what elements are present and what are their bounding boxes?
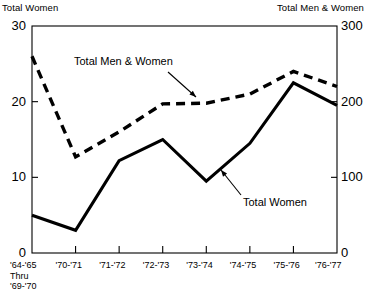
x-axis-tick-label-line: '69-'70 [10, 281, 36, 292]
x-axis-tick-label-line: '74-'75 [230, 260, 256, 271]
annotation-total-women: Total Women [243, 196, 307, 208]
x-axis-tick-label-line: '75-'76 [273, 260, 299, 271]
x-axis-tick-label: '71-'72 [99, 260, 125, 271]
x-axis-tick-label-line: '64-'65 [10, 260, 36, 271]
left-axis-tick-label: 0 [0, 245, 26, 260]
x-axis-tick-label-line: '72-'73 [143, 260, 169, 271]
x-axis-tick-label: '75-'76 [273, 260, 299, 271]
right-axis-tick-label: 100 [341, 169, 363, 184]
annotation-total-men-women: Total Men & Women [74, 55, 173, 67]
x-axis-tick-label-line: '73-'74 [186, 260, 212, 271]
right-axis-tick-label: 0 [341, 245, 348, 260]
x-axis-tick-label: '74-'75 [230, 260, 256, 271]
left-axis-tick-label: 20 [0, 94, 26, 109]
x-axis-tick-label: '72-'73 [143, 260, 169, 271]
series-line-total-men-women [32, 56, 337, 157]
x-axis-tick-label-line: '71-'72 [99, 260, 125, 271]
left-axis-tick-label: 30 [0, 18, 26, 33]
x-axis-tick-label: '73-'74 [186, 260, 212, 271]
x-axis-tick-label-line: Thru [10, 271, 36, 282]
x-axis-tick-label: '76-'77 [315, 260, 341, 271]
x-axis-tick-label: '70-'71 [56, 260, 82, 271]
right-axis-tick-label: 300 [341, 18, 363, 33]
right-axis-tick-label: 200 [341, 94, 363, 109]
x-axis-tick-label: '64-'65Thru'69-'70 [10, 260, 36, 292]
x-axis-tick-label-line: '76-'77 [315, 260, 341, 271]
left-axis-tick-label: 10 [0, 169, 26, 184]
line-chart-canvas [0, 0, 367, 294]
x-axis-tick-label-line: '70-'71 [56, 260, 82, 271]
chart-root: Total Women Total Men & Women 0102030 01… [0, 0, 367, 294]
